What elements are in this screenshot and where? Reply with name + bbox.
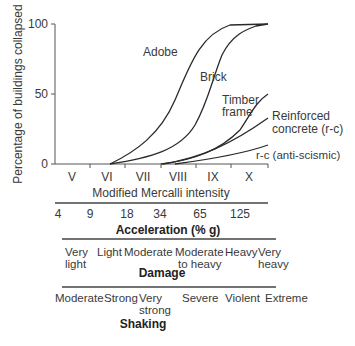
damage-very-heavy: Very heavy bbox=[258, 246, 289, 270]
shaking-label: Shaking bbox=[120, 317, 167, 331]
x-tick-VII: VII bbox=[136, 170, 151, 184]
acceleration-scale: 4 9 18 34 65 125 Acceleration (% g) bbox=[55, 203, 268, 237]
label-adobe: Adobe bbox=[143, 45, 178, 59]
shaking-very-strong: Very strong bbox=[139, 292, 171, 316]
acc-tick: 34 bbox=[153, 207, 167, 221]
damage-light: Light bbox=[97, 246, 123, 258]
label-rc-1: Reinforced bbox=[272, 109, 330, 123]
x-tick-VIII: VIII bbox=[169, 170, 187, 184]
shaking-moderate: Moderate bbox=[55, 292, 104, 304]
label-timber-2: frame bbox=[222, 105, 253, 119]
shaking-severe: Severe bbox=[182, 292, 218, 304]
x-axis-label: Modified Mercalli intensity bbox=[92, 186, 229, 200]
acc-tick: 9 bbox=[87, 207, 94, 221]
acc-tick: 65 bbox=[193, 207, 207, 221]
shaking-strong: Strong bbox=[104, 292, 138, 304]
x-tick-VI: VI bbox=[101, 170, 112, 184]
x-axis: V VI VII VIII IX X Modified Mercalli int… bbox=[55, 164, 268, 200]
x-tick-V: V bbox=[68, 170, 76, 184]
collapse-chart: 100 50 0 Percentage of buildings collaps… bbox=[0, 0, 355, 346]
y-tick-0: 0 bbox=[41, 157, 48, 171]
damage-very-light: Very light bbox=[65, 246, 91, 270]
acc-tick: 4 bbox=[55, 207, 62, 221]
y-tick-50: 50 bbox=[35, 87, 49, 101]
damage-moderate: Moderate bbox=[124, 246, 173, 258]
label-rc-2: concrete (r-c) bbox=[272, 122, 343, 136]
shaking-extreme: Extreme bbox=[265, 292, 308, 304]
curve-rc-anti-seismic bbox=[175, 145, 268, 164]
acc-tick: 18 bbox=[120, 207, 134, 221]
damage-scale: Very light Light Moderate Moderate to he… bbox=[62, 239, 289, 280]
y-tick-100: 100 bbox=[28, 17, 48, 31]
damage-label: Damage bbox=[139, 266, 186, 280]
shaking-scale: Moderate Strong Very strong Severe Viole… bbox=[55, 287, 308, 331]
x-tick-X: X bbox=[245, 170, 253, 184]
acceleration-label: Acceleration (% g) bbox=[116, 223, 221, 237]
label-brick: Brick bbox=[200, 70, 228, 84]
shaking-violent: Violent bbox=[225, 292, 261, 304]
y-axis-label: Percentage of buildings collapsed bbox=[11, 4, 25, 183]
damage-heavy: Heavy bbox=[225, 246, 258, 258]
acc-tick: 125 bbox=[230, 207, 250, 221]
y-axis: 100 50 0 Percentage of buildings collaps… bbox=[11, 4, 55, 183]
curve-reinforced-concrete bbox=[163, 118, 268, 164]
label-rc-anti-seismic: r-c (anti-scismic) bbox=[256, 149, 340, 161]
x-tick-IX: IX bbox=[207, 170, 218, 184]
